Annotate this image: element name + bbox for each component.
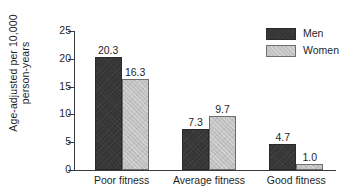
bar-men-poor: 20.3 [95, 57, 122, 170]
x-axis-label-poor: Poor fitness [94, 174, 149, 187]
legend-label-women: Women [303, 44, 339, 57]
legend-item-women: Women [266, 43, 339, 58]
bar-value-label: 1.0 [303, 151, 318, 163]
bar-value-label: 16.3 [125, 66, 145, 78]
y-axis-line [74, 31, 75, 170]
y-tick-label: 20 [49, 52, 71, 65]
y-tick-label: 5 [49, 135, 71, 148]
y-tick-label: 25 [49, 24, 71, 37]
x-axis-line [68, 170, 336, 171]
bar-women-good: 1.0 [296, 164, 323, 170]
legend-label-men: Men [303, 27, 323, 40]
bar-chart: Age-adjusted per 10,000 person-years 051… [0, 0, 351, 193]
y-tick-label: 0 [49, 163, 71, 176]
legend-swatch-men-icon [266, 28, 296, 40]
bar-women-poor: 16.3 [122, 79, 149, 170]
x-axis-label-average: Average fitness [173, 174, 245, 187]
legend-swatch-women-icon [266, 45, 296, 57]
legend-item-men: Men [266, 26, 339, 41]
legend: Men Women [266, 26, 339, 60]
bar-men-average: 7.3 [182, 129, 209, 170]
bar-value-label: 9.7 [215, 103, 230, 115]
y-axis-title-line1: Age-adjusted per 10,000 [7, 14, 20, 131]
x-axis-label-good: Good fitness [267, 174, 326, 187]
bar-value-label: 7.3 [188, 116, 203, 128]
y-axis-title: Age-adjusted per 10,000 person-years [1, 0, 37, 148]
y-tick-label: 15 [49, 80, 71, 93]
bar-men-good: 4.7 [269, 144, 296, 170]
y-tick-label: 10 [49, 107, 71, 120]
y-axis-title-line2: person-years [19, 42, 32, 104]
bar-value-label: 4.7 [276, 131, 291, 143]
bar-value-label: 20.3 [98, 44, 118, 56]
bar-women-average: 9.7 [209, 116, 236, 170]
